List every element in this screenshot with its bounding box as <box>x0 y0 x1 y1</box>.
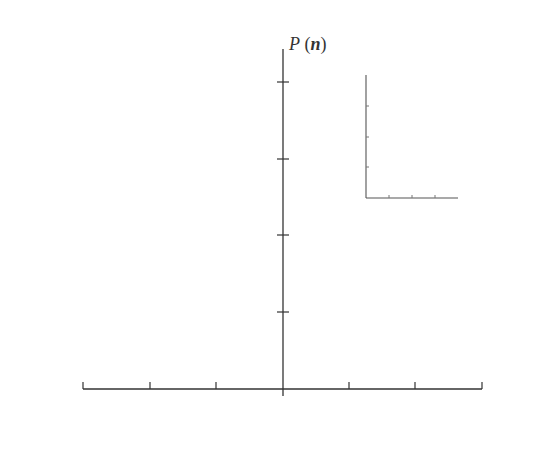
inset-chart <box>0 0 458 198</box>
main-y-axis-label: P (n) <box>288 34 327 55</box>
figure: P (n) <box>0 0 549 473</box>
